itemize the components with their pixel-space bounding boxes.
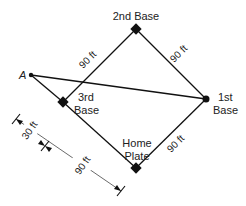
home-plate-label-line2: Plate [124,150,149,162]
baseball-diamond-diagram: 2nd Base 1st Base 3rd Base Home Plate A … [0,0,246,206]
third-to-second-length-label: 90 ft [77,49,99,71]
arrow-icon [45,146,52,152]
third-base-label-line1: 3rd [78,91,94,103]
arrow-icon [114,185,121,191]
side-second-to-first [136,29,206,99]
arrow-icon [38,140,45,146]
second-base-label: 2nd Base [113,10,159,22]
first-base-label-line2: Base [213,104,238,116]
first-base-label-line1: 1st [218,91,233,103]
point-a-marker [29,73,33,77]
home-plate-label-line1: Home [122,137,151,149]
segment-a-to-first [31,75,206,99]
third-base-label-line2: Base [74,104,99,116]
arrow-icon [16,119,23,125]
first-base-marker [203,96,210,103]
second-to-first-length-label: 90 ft [168,43,190,65]
side-third-to-second [63,29,136,102]
point-a-label: A [18,69,26,81]
